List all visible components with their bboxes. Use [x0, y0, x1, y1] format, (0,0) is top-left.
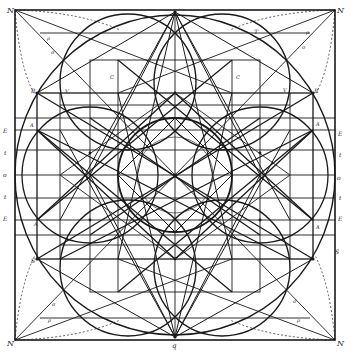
label-S-right: S	[335, 248, 339, 255]
label-t-right-upper: t	[339, 151, 342, 158]
label-diag-tr-1: ρ	[305, 29, 309, 36]
label-E-left-lower: E	[2, 215, 8, 222]
label-A-left-upper: A	[29, 122, 34, 128]
label-o-right: o	[337, 174, 341, 181]
label-diag-tl-2: σ	[51, 49, 55, 55]
label-A-left-lower: A	[33, 221, 38, 227]
label-R-left: R	[30, 87, 36, 94]
label-t-right-lower: t	[339, 194, 342, 201]
label-bottom-apex: q	[172, 342, 177, 350]
label-top-apex: T	[254, 28, 259, 35]
label-A-right-lower: A	[315, 224, 320, 230]
label-S-left: S	[31, 257, 35, 264]
label-V-tr: V	[283, 87, 288, 93]
label-A-right-upper: A	[315, 121, 320, 127]
label-E-right-upper: E	[337, 130, 343, 137]
label-t-left-upper: t	[4, 149, 7, 156]
label-C-left: C	[110, 74, 114, 80]
geometric-construction-diagram: N N N N T q R R S S E t o t E E t o t E …	[0, 0, 351, 352]
label-corner-tl: N	[6, 6, 15, 15]
label-C-right: C	[236, 74, 240, 80]
label-E-right-lower: E	[337, 215, 343, 222]
label-o-left: o	[3, 171, 7, 178]
label-diag-bl-1: σ	[52, 301, 56, 307]
label-corner-tr: N	[336, 6, 345, 15]
label-diag-tr-2: σ	[302, 44, 306, 50]
label-diag-br-1: σ	[293, 298, 297, 304]
label-diag-br-2: ρ	[296, 317, 300, 324]
label-diag-bl-2: ρ	[47, 317, 51, 324]
label-corner-br: N	[336, 339, 345, 348]
label-corner-bl: N	[6, 339, 15, 348]
label-diag-tl-1: ρ	[46, 35, 50, 42]
label-t-left-lower: t	[4, 193, 7, 200]
label-E-left-upper: E	[2, 127, 8, 134]
